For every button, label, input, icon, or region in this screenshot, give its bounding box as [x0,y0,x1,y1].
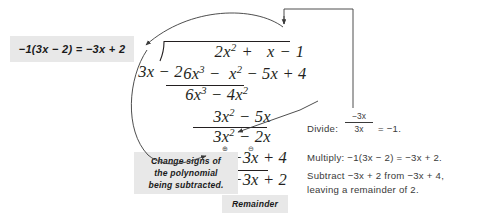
callout-sign-change-equation-text: −1(3x − 2) = −3x + 2 [19,43,126,55]
divide-denominator: 3x [345,124,373,134]
step-divide-result: = −1. [378,123,401,134]
callout-change-signs-line-3: being subtracted. [148,179,223,191]
step-divide-label: Divide: [307,123,338,134]
step-subtract-line-1: Subtract −3x + 2 from −3x + 4, [307,170,444,181]
callout-sign-change-equation: −1(3x − 2) = −3x + 2 [10,36,134,62]
divide-numerator: −3x [345,111,373,121]
long-division-diagram: −1(3x − 2) = −3x + 2 3x − 2 2x2 + x − 1 … [0,0,495,223]
step-divide-fraction: −3x 3x [345,111,373,134]
callout-change-signs-line-1: Change signs of [151,155,221,167]
step-subtract-line-2: leaving a remainder of 2. [307,184,419,195]
callout-remainder-label-text: Remainder [232,199,278,209]
step-multiply: Multiply: −1(3x − 2) = −3x + 2. [307,152,442,163]
callout-remainder-label: Remainder [222,195,288,213]
callout-change-signs-line-2: the polynomial [154,167,217,179]
fraction-bar [345,122,373,123]
callout-change-signs: Change signs of the polynomial being sub… [134,152,238,194]
rule-row-1 [166,85,244,86]
